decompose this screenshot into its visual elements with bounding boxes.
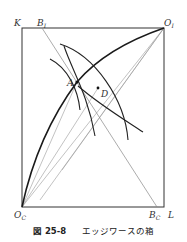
ray-oc-d bbox=[22, 88, 98, 207]
edgeworth-box-diagram: K BI OI A D OC BC L 図 25-8 エッジワースの箱 bbox=[0, 0, 187, 242]
label-k: K bbox=[13, 18, 22, 28]
ray-oi-oc bbox=[22, 28, 164, 207]
label-o-c: OC bbox=[14, 210, 26, 221]
label-b-c: BC bbox=[148, 210, 161, 221]
budget-line bbox=[42, 28, 157, 207]
caption-text: エッジワースの箱 bbox=[82, 226, 154, 236]
point-d bbox=[97, 87, 100, 90]
caption-number: 図 25-8 bbox=[33, 226, 66, 236]
label-b-i: BI bbox=[36, 18, 47, 29]
indifference-curve-3 bbox=[64, 46, 95, 136]
label-l: L bbox=[167, 210, 174, 220]
label-o-i: OI bbox=[164, 18, 174, 29]
ray-oi-2 bbox=[62, 28, 164, 170]
label-a: A bbox=[66, 78, 74, 88]
indifference-curve-4 bbox=[78, 86, 143, 132]
ray-oc-a bbox=[22, 82, 77, 207]
label-d: D bbox=[100, 89, 108, 99]
point-a bbox=[75, 80, 78, 83]
